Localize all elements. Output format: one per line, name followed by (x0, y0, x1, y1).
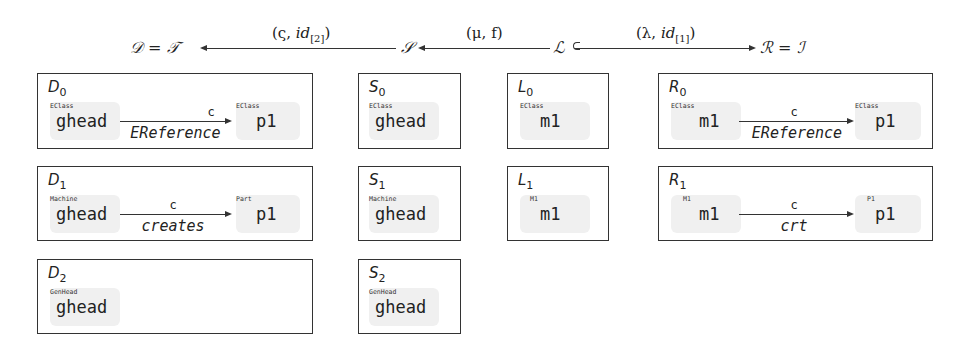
arrow-label-L-to-R: (λ, id[1]) (636, 24, 695, 44)
node-p1: EClass p1 (236, 102, 300, 140)
edge-type: crt (739, 217, 849, 235)
box-title: R0 (669, 78, 686, 99)
box-title: S2 (369, 264, 386, 285)
node-p1: P1 p1 (855, 195, 921, 233)
graph-box-D1: D1 Machine ghead c creates Part p1 (37, 166, 313, 241)
node-ghead: Machine ghead (50, 195, 120, 233)
box-title: D0 (48, 78, 67, 99)
edge-label: c (739, 198, 849, 212)
graph-box-S0: S0 EClass ghead (358, 73, 461, 149)
node-ghead: GenHead ghead (369, 288, 439, 326)
arrowhead-icon (749, 45, 756, 51)
node-ghead: Machine ghead (369, 195, 439, 233)
arrow-label-L-to-S: (μ, f) (466, 24, 503, 42)
arrow-S-to-D (206, 48, 396, 49)
graph-box-D2: D2 GenHead ghead (37, 259, 313, 334)
arrow-L-to-R (575, 48, 749, 49)
label-S: 𝒮 (401, 38, 413, 58)
label-L: ℒ (553, 38, 565, 58)
edge-type: creates (118, 217, 228, 235)
graph-box-S1: S1 Machine ghead (358, 166, 461, 241)
node-ghead: GenHead ghead (50, 288, 120, 326)
edge-type: EReference (737, 124, 857, 142)
graph-box-D0: D0 EClass ghead c EReference EClass p1 (37, 73, 313, 149)
node-ghead: EClass ghead (369, 102, 439, 140)
graph-box-S2: S2 GenHead ghead (358, 259, 461, 334)
node-m1: M1 m1 (671, 195, 741, 233)
graph-box-L0: L0 EClass m1 (507, 73, 609, 149)
box-title: L1 (518, 171, 533, 192)
box-title: S1 (369, 171, 386, 192)
box-title: R1 (669, 171, 686, 192)
box-title: S0 (369, 78, 386, 99)
edge-label: c (739, 105, 849, 119)
edge-type: EReference (118, 124, 233, 142)
edge-label: c (118, 198, 228, 212)
graph-box-R1: R1 M1 m1 c crt P1 p1 (658, 166, 933, 241)
graph-box-R0: R0 EClass m1 c EReference EClass p1 (658, 73, 933, 149)
edge-c (739, 214, 847, 215)
node-p1: Part p1 (236, 195, 300, 233)
edge-c (120, 214, 225, 215)
node-ghead: EClass ghead (50, 102, 120, 140)
arrow-label-S-to-D: (ς, id[2]) (272, 24, 330, 44)
edge-c (120, 121, 225, 122)
node-m1: EClass m1 (671, 102, 741, 140)
node-p1: EClass p1 (855, 102, 921, 140)
box-title: L0 (518, 78, 533, 99)
arrow-L-to-S (424, 48, 550, 49)
box-title: D2 (48, 264, 67, 285)
node-m1: M1 m1 (520, 195, 590, 233)
node-m1: EClass m1 (520, 102, 590, 140)
edge-c (739, 121, 847, 122)
box-title: D1 (48, 171, 67, 192)
label-D-equals-T: 𝒟 = 𝒯 (130, 38, 179, 58)
label-R-equals-I: ℛ = ℐ (760, 38, 805, 58)
graph-box-L1: L1 M1 m1 (507, 166, 609, 241)
